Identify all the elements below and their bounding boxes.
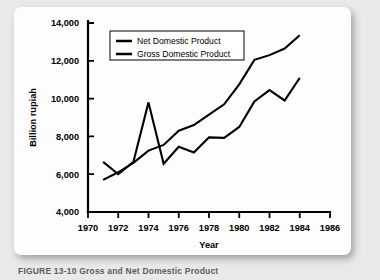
x-tick-label: 1986 (320, 223, 340, 233)
x-tick-label: 1972 (108, 223, 128, 233)
x-axis-tick-labels: 197019721974197619781980198219841986 (78, 223, 340, 233)
x-tick-label: 1978 (199, 223, 219, 233)
x-tick-label: 1976 (169, 223, 189, 233)
x-tick-label: 1980 (229, 223, 249, 233)
legend-label: Gross Domestic Product (137, 49, 231, 59)
x-tick-label: 1984 (290, 223, 311, 233)
chart-plot-area: 4,0006,0008,00010,00012,00014,000 197019… (14, 7, 351, 255)
x-axis-title: Year (199, 240, 219, 250)
x-tick-label: 1982 (259, 223, 279, 233)
figure-card-inner: 4,0006,0008,00010,00012,00014,000 197019… (14, 7, 351, 255)
x-tick-label: 1970 (78, 223, 98, 233)
legend-label: Net Domestic Product (137, 36, 221, 46)
y-tick-label: 10,000 (51, 94, 79, 104)
y-axis-title: Billion rupiah (28, 88, 38, 147)
y-tick-label: 12,000 (51, 56, 79, 66)
line-chart-svg: 4,0006,0008,00010,00012,00014,000 197019… (14, 7, 351, 255)
y-tick-label: 8,000 (56, 132, 79, 142)
chart-legend: Net Domestic ProductGross Domestic Produ… (110, 31, 244, 60)
series-line (103, 78, 300, 174)
y-tick-label: 4,000 (56, 207, 79, 217)
x-tick-label: 1974 (138, 223, 159, 233)
y-axis-tick-labels: 4,0006,0008,00010,00012,00014,000 (51, 18, 79, 217)
y-tick-label: 14,000 (51, 18, 79, 28)
y-tick-label: 6,000 (56, 170, 79, 180)
figure-root: 4,0006,0008,00010,00012,00014,000 197019… (0, 0, 380, 280)
figure-card: 4,0006,0008,00010,00012,00014,000 197019… (14, 7, 351, 255)
figure-caption: FIGURE 13-10 Gross and Net Domestic Prod… (18, 266, 368, 276)
